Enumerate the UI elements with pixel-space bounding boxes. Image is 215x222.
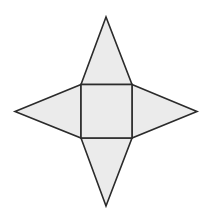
triangle-face-right xyxy=(132,85,197,139)
triangle-face-top xyxy=(81,17,132,85)
square-pyramid-net xyxy=(0,0,215,222)
square-base-face xyxy=(81,85,132,139)
triangle-face-left xyxy=(15,85,81,139)
triangle-face-bottom xyxy=(81,138,132,206)
